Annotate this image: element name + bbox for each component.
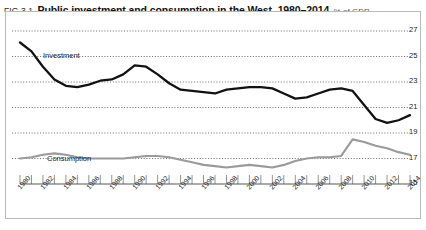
series-label-investment: Investment (43, 51, 80, 60)
y-axis-tick-23: 23 (409, 76, 417, 85)
y-axis-tick-17: 17 (409, 153, 417, 162)
series-label-consumption: Consumption (47, 154, 91, 163)
y-axis-tick-21: 21 (409, 102, 417, 111)
y-axis-tick-25: 25 (409, 51, 417, 60)
y-axis-tick-27: 27 (409, 25, 417, 34)
figure-container: FIG 3.1 Public investment and consumptio… (0, 0, 426, 230)
y-axis-tick-19: 19 (409, 127, 417, 136)
